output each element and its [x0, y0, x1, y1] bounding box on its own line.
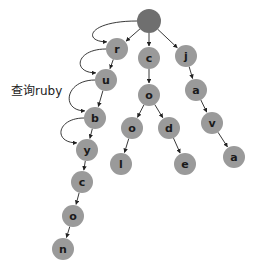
edge-d-e — [173, 138, 180, 153]
edge-c2-o3 — [76, 193, 79, 205]
trie-node-c2: c — [71, 171, 93, 193]
trie-nodes: rcjuoabodvyleacon — [52, 9, 245, 260]
trie-node-o1: o — [138, 84, 160, 106]
node-label: d — [165, 122, 173, 135]
edge-b-y — [90, 129, 92, 139]
node-label: l — [119, 158, 123, 171]
edge-j-a1 — [189, 67, 193, 79]
trie-node-o2: o — [121, 117, 143, 139]
node-label: e — [181, 158, 188, 171]
search-curve-b-y — [61, 118, 84, 143]
edge-u-b — [98, 91, 103, 107]
edge-o1-d — [155, 104, 163, 117]
edge-o3-n — [66, 227, 69, 238]
trie-node-e: e — [174, 153, 196, 175]
node-label: a — [230, 151, 237, 164]
search-curve-r-u — [80, 49, 106, 73]
trie-node-c1: c — [138, 47, 160, 69]
node-label: u — [102, 74, 110, 87]
trie-node-j: j — [175, 45, 197, 67]
node-label: n — [59, 243, 67, 256]
edge-r-u — [110, 59, 113, 68]
node-label: j — [183, 50, 188, 63]
node-label: o — [128, 122, 136, 135]
node-label: c — [79, 176, 86, 189]
node-label: a — [192, 84, 199, 97]
trie-node-a2: a — [223, 146, 245, 168]
node-label: o — [145, 89, 153, 102]
trie-node-n: n — [52, 238, 74, 260]
node-label: v — [208, 117, 216, 130]
edge-a1-v — [201, 100, 207, 112]
trie-node-u: u — [95, 69, 117, 91]
root-node-circle — [137, 9, 161, 33]
node-label: r — [114, 43, 120, 56]
edge-root-j — [158, 29, 178, 48]
node-label: y — [83, 144, 90, 157]
trie-node-y: y — [76, 139, 98, 161]
trie-node-v: v — [201, 112, 223, 134]
search-curve-u-b — [69, 80, 95, 111]
edge-y-c2 — [84, 161, 85, 170]
edge-root-r — [126, 29, 140, 41]
node-label: c — [146, 52, 153, 65]
trie-canvas: rcjuoabodvyleacon — [0, 0, 257, 274]
trie-node-l: l — [110, 153, 132, 175]
trie-node-root — [137, 9, 161, 33]
edge-v-a2 — [218, 132, 228, 147]
edge-o2-l — [125, 139, 129, 153]
edge-o1-o2 — [137, 105, 143, 118]
trie-node-b: b — [84, 107, 106, 129]
trie-node-r: r — [106, 38, 128, 60]
query-label: 查询ruby — [11, 81, 62, 98]
node-label: o — [69, 210, 77, 223]
trie-node-o3: o — [62, 205, 84, 227]
trie-node-d: d — [158, 117, 180, 139]
node-label: b — [91, 112, 99, 125]
trie-diagram: rcjuoabodvyleacon 查询ruby — [0, 0, 257, 274]
trie-node-a1: a — [185, 79, 207, 101]
